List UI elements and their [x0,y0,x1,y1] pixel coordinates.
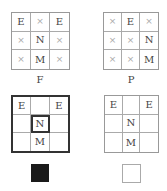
grid-cell [105,133,123,152]
grid-cell: N [140,32,158,51]
cross-mark-icon: × [50,50,69,69]
grid-cell [31,97,49,115]
cross-mark-icon: × [50,32,69,51]
grid-cell: M [123,133,141,152]
cross-mark-icon: × [12,32,31,51]
grid-cell: E [122,13,140,32]
cross-mark-icon: × [122,50,140,69]
grid-cell: E [13,97,31,115]
caption-p: P [121,74,141,85]
cross-mark-icon: × [104,50,122,69]
grid-bold: E E N M [11,95,70,153]
grid-p: × E × × × N × × M [103,12,159,70]
caption-f: F [30,74,50,85]
cross-mark-icon: × [104,13,122,32]
grid-cell: E [105,96,123,115]
cross-mark-icon: × [122,32,140,51]
grid-cell [123,96,141,115]
grid-light: E E N M [104,95,159,153]
grid-cell: E [12,13,31,32]
cross-mark-icon: × [104,32,122,51]
grid-cell [50,115,68,133]
grid-cell [140,133,158,152]
grid-cell [50,133,68,151]
empty-square-icon [122,164,141,183]
grid-cell: E [50,97,68,115]
grid-cell: M [31,50,50,69]
grid-cell [105,115,123,134]
grid-cell: M [140,50,158,69]
grid-cell [140,115,158,134]
grid-cell: N [31,32,50,51]
grid-f: E × E × N × × M × [11,12,70,70]
grid-cell [13,115,31,133]
grid-cell: E [140,96,158,115]
cross-mark-icon: × [31,13,50,32]
grid-cell: N [123,115,141,134]
filled-square-icon [31,164,49,182]
cross-mark-icon: × [140,13,158,32]
grid-cell: M [31,133,49,151]
cross-mark-icon: × [12,50,31,69]
highlighted-cell: N [31,115,49,133]
grid-cell [13,133,31,151]
grid-cell: E [50,13,69,32]
